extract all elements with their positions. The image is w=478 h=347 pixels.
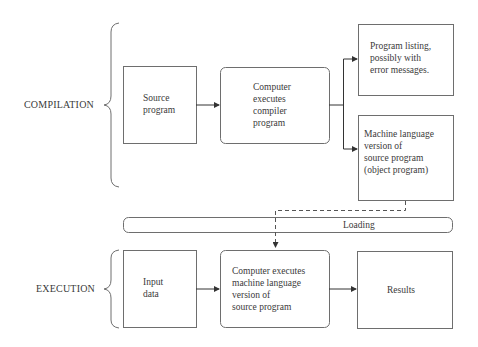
compiler-text: Computer executes compiler program (253, 81, 291, 129)
compilation-brace (104, 23, 119, 187)
loading-text: Loading (343, 219, 375, 231)
execute-text: Computer executes machine language versi… (232, 265, 305, 313)
object-program-text: Machine language version of source progr… (364, 128, 434, 176)
results-text: Results (387, 284, 415, 296)
execution-label: EXECUTION (36, 283, 95, 295)
input-data-text: Input data (143, 276, 163, 300)
execution-brace (104, 250, 119, 328)
loading-bar (124, 218, 453, 233)
branch-connector (329, 59, 344, 149)
compilation-label: COMPILATION (24, 99, 94, 111)
dashed-load-path (276, 201, 406, 247)
source-program-text: Source program (143, 92, 175, 116)
listing-text: Program listing, possibly with error mes… (370, 40, 431, 76)
